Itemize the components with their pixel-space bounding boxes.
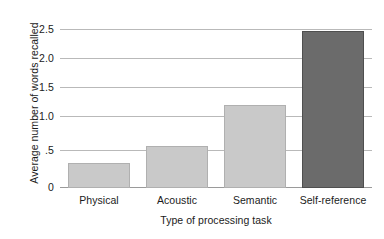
y-tick-label-1-0: 1.0 (39, 110, 54, 122)
x-tick-label-self-reference: Self-reference (272, 194, 384, 206)
y-axis-title: Average number of words recalled (24, 8, 44, 198)
x-axis-title: Type of processing task (60, 214, 372, 226)
bar-self-reference (302, 31, 364, 188)
plot-area: 2.5 2.0 1.5 1.0 .5 0 Physical Acoustic S… (60, 24, 372, 188)
bar-acoustic (146, 146, 208, 188)
bar-series (60, 24, 372, 188)
y-tick-label-1-5: 1.5 (39, 81, 54, 93)
y-tick-label-2-5: 2.5 (39, 23, 54, 35)
bar-semantic (224, 105, 286, 188)
bar-chart-figure: Average number of words recalled 2.5 2.0… (0, 0, 384, 239)
y-tick-label-2-0: 2.0 (39, 52, 54, 64)
bar-physical (68, 163, 130, 188)
y-tick-label-0: 0 (48, 181, 54, 193)
y-tick-label-0-5: .5 (45, 144, 54, 156)
